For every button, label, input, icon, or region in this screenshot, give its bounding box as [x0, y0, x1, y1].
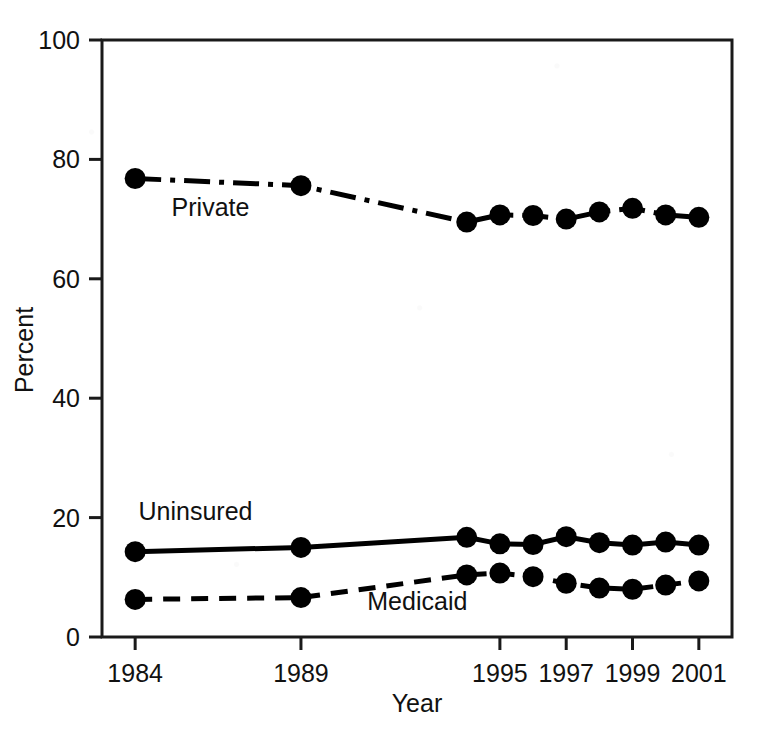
series-label-medicaid: Medicaid — [367, 587, 467, 615]
data-point-uninsured-1989 — [290, 537, 311, 558]
data-point-medicaid-2000 — [655, 575, 676, 596]
data-point-uninsured-1998 — [589, 532, 610, 553]
data-point-uninsured-1984 — [125, 541, 146, 562]
x-tick-label-1989: 1989 — [273, 659, 329, 687]
x-tick-label-1995: 1995 — [472, 659, 528, 687]
y-axis-title: Percent — [10, 307, 38, 393]
data-point-medicaid-1999 — [622, 579, 643, 600]
y-tick-label-40: 40 — [52, 384, 80, 412]
data-point-medicaid-1984 — [125, 589, 146, 610]
data-point-medicaid-1998 — [589, 578, 610, 599]
x-axis-title: Year — [392, 689, 443, 717]
data-point-uninsured-1996 — [523, 534, 544, 555]
series-label-private: Private — [172, 193, 250, 221]
x-tick-label-2001: 2001 — [671, 659, 727, 687]
data-point-private-1998 — [589, 201, 610, 222]
y-tick-label-0: 0 — [66, 623, 80, 651]
data-point-uninsured-1995 — [489, 533, 510, 554]
data-point-private-1997 — [556, 209, 577, 230]
chart-figure: 020406080100 198419891995199719992001 Pr… — [0, 0, 763, 733]
data-point-medicaid-1996 — [523, 566, 544, 587]
data-point-private-1995 — [489, 204, 510, 225]
data-point-private-1996 — [523, 205, 544, 226]
y-tick-label-60: 60 — [52, 265, 80, 293]
data-point-private-1994 — [456, 212, 477, 233]
y-tick-label-100: 100 — [38, 26, 80, 54]
data-point-private-1999 — [622, 198, 643, 219]
data-point-medicaid-1989 — [290, 587, 311, 608]
data-point-medicaid-1994 — [456, 564, 477, 585]
chart-background — [0, 0, 763, 733]
data-point-private-2000 — [655, 204, 676, 225]
data-point-medicaid-1995 — [489, 563, 510, 584]
data-point-medicaid-2001 — [688, 570, 709, 591]
data-point-uninsured-2001 — [688, 535, 709, 556]
series-label-uninsured: Uninsured — [139, 497, 253, 525]
y-tick-label-80: 80 — [52, 145, 80, 173]
x-tick-label-1999: 1999 — [605, 659, 661, 687]
data-point-uninsured-1994 — [456, 527, 477, 548]
x-tick-label-1984: 1984 — [107, 659, 163, 687]
x-tick-label-1997: 1997 — [538, 659, 594, 687]
data-point-uninsured-1997 — [556, 526, 577, 547]
data-point-private-1989 — [290, 175, 311, 196]
data-point-uninsured-2000 — [655, 532, 676, 553]
y-tick-label-20: 20 — [52, 504, 80, 532]
data-point-private-2001 — [688, 207, 709, 228]
data-point-private-1984 — [125, 168, 146, 189]
data-point-medicaid-1997 — [556, 573, 577, 594]
line-chart: 020406080100 198419891995199719992001 Pr… — [0, 0, 763, 733]
data-point-uninsured-1999 — [622, 535, 643, 556]
